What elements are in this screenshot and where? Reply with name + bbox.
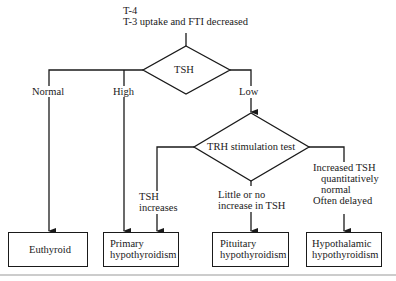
branch-tsh-increases-line-2: increases — [139, 202, 177, 214]
tsh-decision-label: TSH — [174, 64, 194, 76]
outcome-hypothalamic-box: Hypothalamic hypothyroidism — [306, 232, 382, 267]
outcome-hypothalamic-line-2: hypothyroidism — [312, 249, 379, 261]
branch-normal-label: Normal — [32, 86, 64, 98]
branch-increased-line-4: Often delayed — [313, 195, 372, 207]
outcome-euthyroid-label: Euthyroid — [29, 244, 71, 256]
outcome-euthyroid-box: Euthyroid — [8, 232, 88, 267]
outcome-primary-line-2: hypothyroidism — [110, 249, 177, 261]
outcome-pituitary-line-2: hypothyroidism — [220, 249, 287, 261]
outcome-primary-box: Primary hypothyroidism — [103, 232, 179, 267]
trh-decision-label: TRH stimulation test — [207, 141, 295, 153]
branch-little-line-2: increase in TSH — [218, 200, 285, 212]
branch-low-label: Low — [239, 86, 258, 98]
branch-high-label: High — [113, 86, 134, 98]
header-line-2: T-3 uptake and FTI decreased — [123, 16, 248, 28]
outcome-pituitary-box: Pituitary hypothyroidism — [212, 232, 289, 267]
